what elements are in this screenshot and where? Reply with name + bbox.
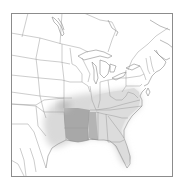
range-map [0,0,183,192]
